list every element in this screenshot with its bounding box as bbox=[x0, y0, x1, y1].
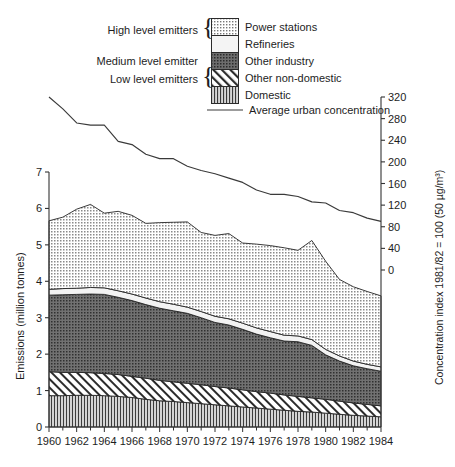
svg-text:280: 280 bbox=[388, 113, 406, 125]
svg-text:0: 0 bbox=[388, 264, 394, 276]
svg-text:120: 120 bbox=[388, 199, 406, 211]
svg-text:240: 240 bbox=[388, 134, 406, 146]
svg-text:4: 4 bbox=[36, 275, 42, 287]
svg-text:80: 80 bbox=[388, 221, 400, 233]
svg-text:1978: 1978 bbox=[286, 435, 310, 447]
average-urban-concentration-line bbox=[49, 97, 381, 221]
svg-text:40: 40 bbox=[388, 242, 400, 254]
svg-text:1972: 1972 bbox=[203, 435, 227, 447]
svg-text:1968: 1968 bbox=[147, 435, 171, 447]
svg-text:1980: 1980 bbox=[313, 435, 337, 447]
svg-text:320: 320 bbox=[388, 91, 406, 103]
svg-text:6: 6 bbox=[36, 202, 42, 214]
svg-text:5: 5 bbox=[36, 239, 42, 251]
svg-text:160: 160 bbox=[388, 178, 406, 190]
svg-text:7: 7 bbox=[36, 166, 42, 178]
stacked-areas bbox=[49, 204, 381, 427]
svg-text:1974: 1974 bbox=[230, 435, 254, 447]
svg-text:1982: 1982 bbox=[341, 435, 365, 447]
chart-plot-area: 0123456704080120160200240280320196019621… bbox=[0, 0, 455, 467]
svg-text:200: 200 bbox=[388, 156, 406, 168]
svg-text:0: 0 bbox=[36, 421, 42, 433]
svg-text:1984: 1984 bbox=[369, 435, 393, 447]
svg-text:2: 2 bbox=[36, 348, 42, 360]
svg-text:1964: 1964 bbox=[92, 435, 116, 447]
svg-text:1960: 1960 bbox=[37, 435, 61, 447]
svg-text:1: 1 bbox=[36, 385, 42, 397]
svg-text:1976: 1976 bbox=[258, 435, 282, 447]
svg-text:1966: 1966 bbox=[120, 435, 144, 447]
svg-text:3: 3 bbox=[36, 312, 42, 324]
svg-text:1962: 1962 bbox=[64, 435, 88, 447]
svg-text:1970: 1970 bbox=[175, 435, 199, 447]
